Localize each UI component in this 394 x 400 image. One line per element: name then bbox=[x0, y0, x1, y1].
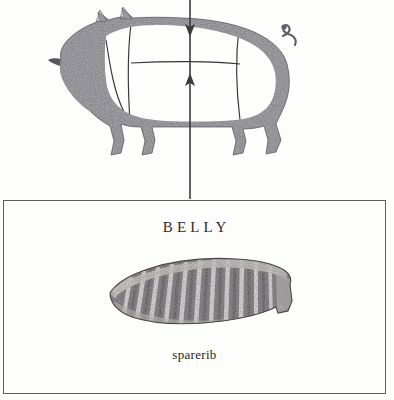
cut-caption: sparerib bbox=[4, 347, 385, 363]
cut-detail-box: BELLY bbox=[3, 200, 386, 394]
pig-tail-icon bbox=[281, 24, 295, 45]
sparerib-illustration bbox=[100, 249, 300, 339]
snout-icon bbox=[48, 58, 61, 66]
cut-chart-page: BELLY bbox=[0, 0, 394, 400]
cut-title: BELLY bbox=[4, 219, 385, 236]
